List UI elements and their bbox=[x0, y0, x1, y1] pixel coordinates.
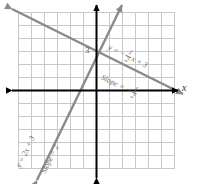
y-intercept-label: 3 bbox=[85, 45, 90, 55]
graph-figure: 3 x y = − 1 2 x + 3 Slope = − 1 2 y = 2x… bbox=[0, 0, 197, 184]
x-axis-label: x bbox=[182, 82, 186, 93]
coordinate-plane bbox=[0, 0, 197, 184]
equation-suffix: x + 3 bbox=[130, 54, 149, 70]
